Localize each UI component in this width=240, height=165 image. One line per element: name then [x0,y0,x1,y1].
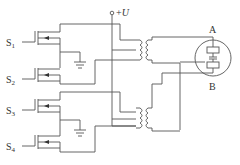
terminal-node-icon [110,11,114,15]
return-wire [60,60,136,84]
gap-icon [209,53,217,62]
switch-label: S4 [6,141,16,154]
transformer-2 [136,73,213,131]
gate-lead [22,99,35,110]
supply-label: +U [116,7,130,18]
switch-label: S3 [6,105,16,118]
gate-lead [22,135,35,146]
ground-wire [60,52,80,62]
mosfet-s1: S1 [6,24,136,50]
secondary-top-lead [152,37,213,40]
element-icon [207,62,219,68]
element-icon [207,47,219,53]
upper-switch-pair: S1 S2 [6,24,136,87]
secondary-coil-icon [146,40,152,60]
switch-label: S1 [6,37,16,50]
lower-switch-pair: S3 S4 [6,92,136,154]
terminal-a-label: A [209,24,217,35]
load: A B [195,24,231,92]
primary-coil-icon [136,40,142,60]
center-tap-wire [112,119,136,126]
arrow-icon [44,140,49,144]
arrow-icon [44,104,49,108]
secondary-bottom-lead [152,60,180,130]
switch-label: S2 [6,74,16,87]
gate-lead [22,31,35,42]
circuit-diagram: +U S1 S2 [0,0,240,165]
primary-coil-icon [136,108,142,128]
ground-icon [74,62,86,68]
arrow-icon [44,36,49,40]
transformer-1 [136,37,213,130]
return-wire [60,126,136,152]
mosfet-s3: S3 [6,92,136,118]
supply-terminal: +U [110,7,129,18]
ground-icon [74,130,86,136]
secondary-coil-icon [146,108,152,128]
gate-lead [22,68,35,79]
terminal-b-label: B [209,81,216,92]
drain-lead [38,92,136,112]
ground-wire [60,120,80,130]
secondary-bottom-lead [152,128,180,131]
arrow-icon [44,73,49,77]
secondary-top-lead [152,73,213,108]
mosfet-s2: S2 [6,68,60,87]
mosfet-s4: S4 [6,135,60,154]
